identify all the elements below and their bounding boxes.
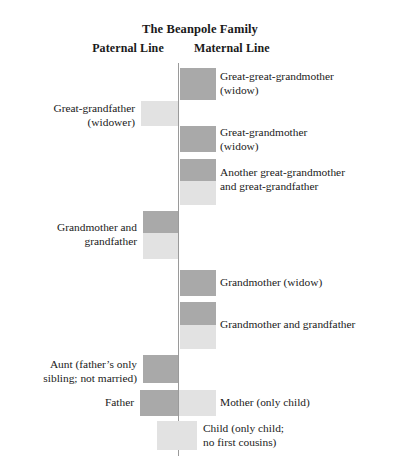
column-header-maternal: Maternal Line — [194, 41, 304, 56]
label-aunt: Aunt (father’s only sibling; not married… — [0, 358, 137, 385]
bar-paternal-grandfather — [143, 233, 178, 259]
column-header-paternal: Paternal Line — [80, 41, 176, 56]
label-great-grandfather: Great-grandfather (widower) — [0, 102, 135, 129]
bar-father — [140, 390, 178, 416]
beanpole-family-diagram: The Beanpole Family Paternal Line Matern… — [0, 0, 400, 469]
label-father: Father — [0, 396, 134, 410]
label-paternal-grandparents: Grandmother and grandfather — [0, 221, 137, 248]
bar-maternal-grandmother — [180, 302, 216, 325]
bar-paternal-grandmother — [143, 211, 178, 233]
label-another-great-grandparents: Another great-grandmother and great-gran… — [220, 166, 398, 193]
label-mother: Mother (only child) — [220, 396, 398, 410]
bar-another-great-grandfather — [180, 181, 216, 205]
label-maternal-grandparents: Grandmother and grandfather — [220, 318, 398, 332]
label-maternal-grandmother-widow: Grandmother (widow) — [220, 276, 398, 290]
bar-great-grandmother — [180, 126, 216, 152]
bar-great-grandfather — [141, 101, 178, 126]
label-great-great-grandmother: Great-great-grandmother (widow) — [220, 70, 395, 97]
bar-another-great-grandmother — [180, 159, 216, 181]
bar-maternal-grandfather — [180, 325, 216, 349]
label-great-grandmother: Great-grandmother (widow) — [220, 126, 395, 153]
bar-aunt — [143, 355, 178, 383]
bar-child — [157, 421, 197, 450]
page-title: The Beanpole Family — [0, 22, 400, 37]
label-child: Child (only child; no first cousins) — [203, 422, 383, 449]
bar-great-great-grandmother — [180, 68, 216, 100]
bar-mother — [179, 390, 216, 416]
bar-maternal-grandmother-widow — [180, 270, 216, 296]
